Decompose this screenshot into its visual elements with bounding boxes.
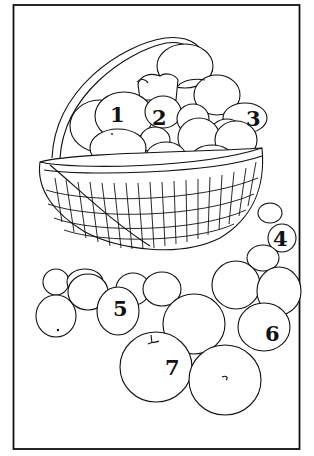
label-4: 4 <box>273 226 288 251</box>
label-5: 5 <box>113 296 128 321</box>
apple-basket-illustration: 1 2 3 4 5 6 7 <box>0 0 314 456</box>
label-6: 6 <box>265 321 280 346</box>
label-3: 3 <box>246 106 261 131</box>
label-1: 1 <box>110 102 125 127</box>
label-2: 2 <box>152 105 167 130</box>
label-7: 7 <box>165 355 180 380</box>
